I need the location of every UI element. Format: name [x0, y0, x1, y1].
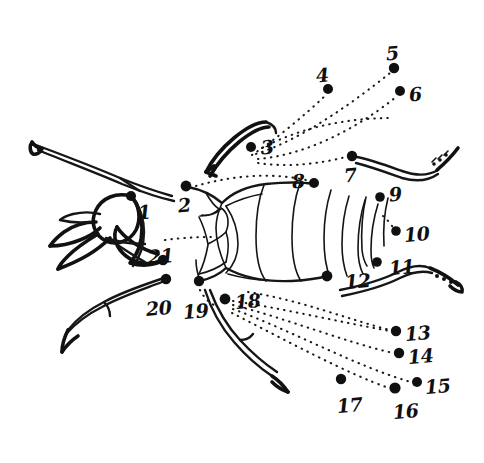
label-number-6: 6: [408, 84, 422, 104]
leader-18-to-15: [233, 309, 411, 382]
label-number-8: 8: [291, 171, 305, 191]
label-dot-1[interactable]: [126, 191, 136, 201]
leader-left-1: [165, 237, 212, 240]
leader-2-body: [196, 176, 306, 186]
label-dot-9[interactable]: [375, 192, 385, 202]
label-number-3: 3: [260, 137, 274, 157]
leader-18-to-14: [233, 305, 393, 353]
label-dot-20[interactable]: [161, 274, 171, 284]
label-dot-6[interactable]: [395, 86, 405, 96]
label-dot-18[interactable]: [220, 294, 231, 305]
label-markers-group: [126, 63, 422, 394]
label-number-9: 9: [388, 184, 402, 204]
label-dot-13[interactable]: [391, 326, 401, 336]
label-number-18: 18: [234, 291, 261, 312]
body-outline: [188, 183, 388, 282]
label-number-19: 19: [182, 301, 209, 322]
label-dot-7[interactable]: [347, 151, 357, 161]
label-number-21: 21: [147, 246, 174, 267]
label-number-4: 4: [315, 65, 329, 85]
label-number-1: 1: [137, 202, 151, 222]
label-dot-16[interactable]: [389, 382, 400, 393]
label-dot-10[interactable]: [391, 226, 401, 236]
label-number-17: 17: [336, 395, 363, 416]
leader-to-6: [258, 97, 396, 159]
label-number-14: 14: [407, 346, 434, 367]
figure-root: 123456789101112131415161718192021: [0, 0, 484, 463]
label-number-10: 10: [403, 224, 430, 245]
label-dot-17[interactable]: [336, 374, 346, 384]
label-number-20: 20: [145, 298, 172, 319]
label-dot-19[interactable]: [194, 276, 204, 286]
label-number-12: 12: [344, 271, 371, 292]
label-dot-5[interactable]: [389, 63, 399, 73]
label-number-2: 2: [177, 195, 191, 215]
label-number-5: 5: [385, 43, 399, 63]
label-dot-11[interactable]: [372, 257, 382, 267]
label-number-13: 13: [404, 323, 431, 344]
label-number-15: 15: [424, 376, 451, 397]
label-dot-12[interactable]: [322, 271, 333, 282]
leader-upper-arc: [262, 118, 392, 148]
label-number-11: 11: [388, 257, 415, 278]
label-dot-8[interactable]: [309, 178, 319, 188]
label-dot-15[interactable]: [412, 377, 422, 387]
label-dot-14[interactable]: [394, 348, 404, 358]
label-number-16: 16: [392, 401, 419, 422]
label-dot-2[interactable]: [181, 181, 192, 192]
label-dot-3[interactable]: [246, 142, 256, 152]
leader-lines-group: [165, 73, 411, 388]
leader-18-to-16: [232, 313, 389, 388]
label-number-7: 7: [343, 165, 357, 185]
